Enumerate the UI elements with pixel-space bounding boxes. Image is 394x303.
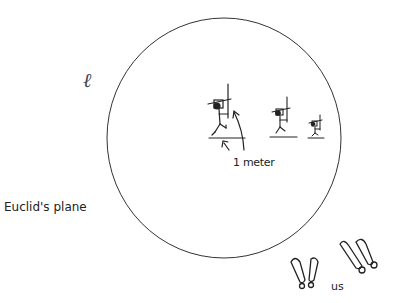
plane-label: Euclid's plane: [4, 200, 87, 214]
observer-label: us: [331, 280, 344, 293]
scale-label: 1 meter: [233, 156, 274, 169]
small-figure: [308, 115, 324, 138]
medium-figure: [270, 97, 297, 137]
plane-symbol: ℓ: [83, 68, 91, 92]
diagram-canvas: [0, 0, 394, 303]
large-figure: [208, 84, 245, 150]
